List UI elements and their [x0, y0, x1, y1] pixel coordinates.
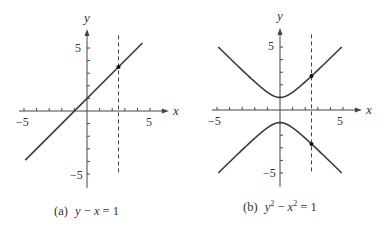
caption-b-label: (b) — [243, 200, 258, 214]
chart-a-x-axis-label: x — [172, 103, 179, 118]
chart-a-y-tick-5: 5 — [75, 41, 81, 55]
chart-a-caption: (a) y − x = 1 — [54, 204, 119, 218]
chart-a-y-tick-neg5: −5 — [70, 168, 83, 182]
figure-canvas: y x −5 5 5 −5 (a) y − x = 1 y x −5 5 5 −… — [0, 0, 386, 228]
caption-a-minus: − — [81, 204, 94, 218]
chart-b-y-tick-5: 5 — [268, 39, 274, 53]
chart-b-caption: (b) y2 − x2 = 1 — [243, 199, 317, 214]
intersection-point — [117, 65, 121, 69]
y-axis-arrow-icon — [85, 29, 90, 36]
x-axis-arrow-icon — [355, 108, 362, 113]
caption-a-label: (a) — [54, 204, 68, 218]
chart-b-x-axis-label: x — [365, 102, 372, 117]
caption-b-eq: = 1 — [297, 200, 317, 214]
chart-a-x-tick-5: 5 — [146, 115, 152, 129]
y-axis-arrow-icon — [278, 28, 283, 35]
chart-a-x-tick-neg5: −5 — [16, 115, 29, 129]
chart-b-x-tick-neg5: −5 — [208, 114, 221, 128]
chart-b-y-axis-label: y — [275, 8, 283, 23]
chart-b — [212, 28, 362, 187]
intersection-point — [310, 142, 314, 146]
caption-a-eq: = 1 — [99, 204, 119, 218]
chart-b-y-tick-neg5: −5 — [263, 166, 276, 180]
x-axis-arrow-icon — [162, 109, 169, 114]
chart-a — [19, 29, 169, 188]
chart-a-y-axis-label: y — [82, 10, 90, 25]
caption-b-minus: − — [274, 200, 287, 214]
intersection-point — [310, 74, 314, 78]
line-curve — [25, 43, 142, 160]
chart-b-x-tick-5: 5 — [337, 114, 343, 128]
